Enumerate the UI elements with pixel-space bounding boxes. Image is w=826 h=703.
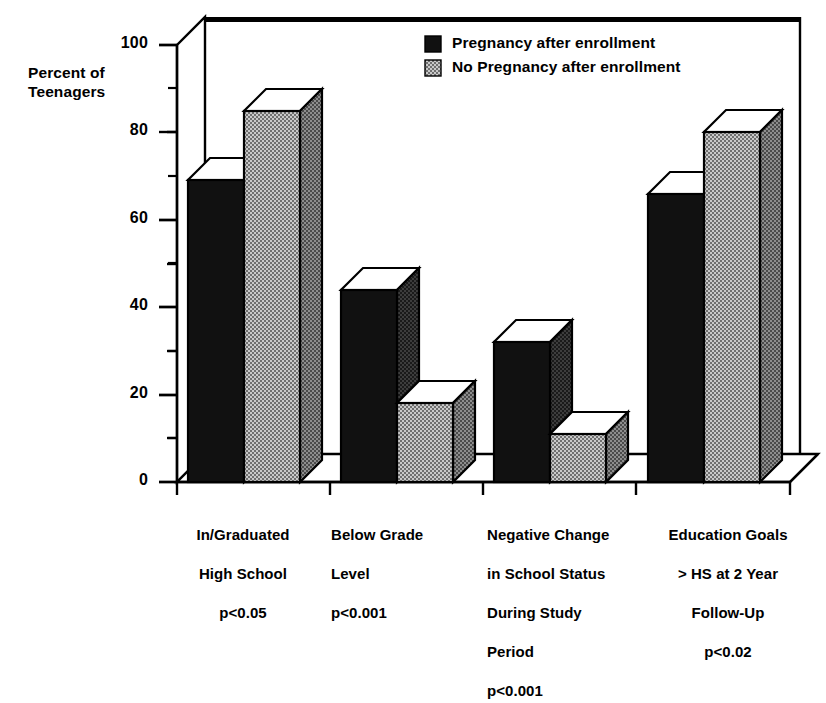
legend-item-pregnancy: Pregnancy after enrollment: [452, 34, 655, 52]
category-2-line4: Period: [487, 642, 647, 662]
bar-g4-no-pregnancy: [704, 110, 782, 482]
axis-top-rule: [205, 17, 800, 22]
legend-swatch-light: [425, 60, 441, 76]
y-axis-title: Percent ofTeenagers: [28, 63, 148, 101]
category-0-line3: p<0.05: [168, 603, 318, 623]
category-3-line3: Follow-Up: [648, 603, 808, 623]
category-2-line2: in School Status: [487, 564, 647, 584]
bar-g1-no-pregnancy: [244, 89, 322, 482]
category-2-line1: Negative Change: [487, 525, 647, 545]
category-2-line3: During Study: [487, 603, 647, 623]
category-1-line3: p<0.001: [331, 603, 481, 623]
category-label-0: In/Graduated High School p<0.05: [168, 505, 318, 642]
category-1-line2: Level: [331, 564, 481, 584]
category-3-line2: > HS at 2 Year: [648, 564, 808, 584]
category-label-1: Below Grade Level p<0.001: [331, 505, 481, 642]
y-axis-title-line2: Teenagers: [28, 83, 105, 100]
category-1-line1: Below Grade: [331, 525, 481, 545]
category-0-line2: High School: [168, 564, 318, 584]
y-tick-label-100: 100: [100, 34, 148, 52]
bar-g2-no-pregnancy: [397, 381, 475, 482]
legend-swatches: [425, 36, 441, 76]
category-2-line5: p<0.001: [487, 681, 647, 701]
y-tick-label-0: 0: [100, 471, 148, 489]
x-axis-ticks: [177, 482, 790, 495]
y-axis-minor-ticks: [168, 88, 177, 438]
category-label-2: Negative Change in School Status During …: [487, 505, 647, 703]
category-0-line1: In/Graduated: [168, 525, 318, 545]
legend-swatch-dark: [425, 36, 441, 52]
y-tick-label-20: 20: [100, 384, 148, 402]
y-tick-label-60: 60: [100, 209, 148, 227]
y-axis-title-line1: Percent of: [28, 64, 105, 81]
category-3-line4: p<0.02: [648, 642, 808, 662]
bar-g3-no-pregnancy: [550, 412, 628, 482]
category-label-3: Education Goals > HS at 2 Year Follow-Up…: [648, 505, 808, 681]
legend-item-no-pregnancy: No Pregnancy after enrollment: [452, 58, 681, 76]
category-3-line1: Education Goals: [648, 525, 808, 545]
y-tick-label-40: 40: [100, 296, 148, 314]
y-tick-label-80: 80: [100, 121, 148, 139]
